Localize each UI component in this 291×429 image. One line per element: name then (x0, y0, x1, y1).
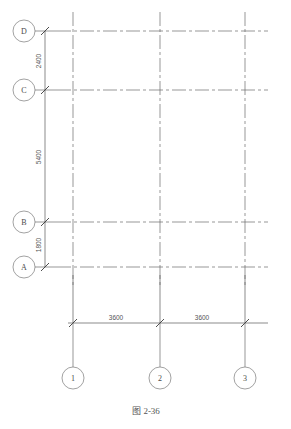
axis-bubble-label: D (21, 27, 27, 36)
figure-container: D C B A (0, 0, 291, 429)
axis-bubble-A[interactable]: A (13, 256, 57, 278)
figure-caption: 图 2-36 (132, 406, 160, 416)
axis-bubble-label: 1 (71, 374, 75, 383)
vertical-dimension-chain: 2400 5400 1800 (35, 27, 49, 271)
vertical-grid-lines (73, 12, 245, 288)
horizontal-dimension-value-bay-1-2: 3600 (109, 314, 124, 321)
vertical-dimension-value-2400: 2400 (35, 53, 42, 68)
axis-bubble-1[interactable]: 1 (62, 323, 84, 389)
horizontal-dimension-value-bay-2-3: 3600 (195, 314, 210, 321)
axis-bubble-label: A (21, 263, 27, 272)
horizontal-dimension-chain: 3600 3600 (68, 275, 268, 327)
axis-bubble-C[interactable]: C (13, 79, 57, 101)
axis-bubble-D[interactable]: D (13, 20, 57, 42)
axis-bubble-label: C (21, 86, 26, 95)
bottom-axis-bubbles: 1 2 3 (62, 323, 256, 389)
axis-bubble-B[interactable]: B (13, 211, 57, 233)
axis-bubble-3[interactable]: 3 (234, 323, 256, 389)
horizontal-grid-lines (57, 31, 268, 267)
axis-grid-drawing: D C B A (0, 0, 291, 429)
axis-bubble-label: B (21, 218, 26, 227)
axis-bubble-label: 3 (243, 374, 247, 383)
axis-bubble-label: 2 (158, 374, 162, 383)
vertical-dimension-value-1800: 1800 (35, 237, 42, 252)
vertical-dimension-value-5400: 5400 (35, 149, 42, 164)
axis-bubble-2[interactable]: 2 (149, 323, 171, 389)
